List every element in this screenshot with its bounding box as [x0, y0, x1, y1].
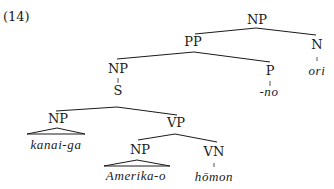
example-number: (14) — [3, 9, 30, 24]
leaf-amerika-o: Amerika-o — [105, 168, 166, 183]
node-np-subj: NP — [48, 111, 68, 126]
node-s: S — [114, 83, 123, 98]
leaf-ori: ori — [309, 63, 326, 78]
leaf-kanai-ga: kanai-ga — [30, 137, 81, 152]
node-pp: PP — [184, 34, 202, 49]
leaf-no: -no — [259, 84, 278, 99]
leaf-homon: hōmon — [195, 169, 233, 184]
triangle-np-obj — [104, 160, 170, 166]
node-np-root: NP — [247, 12, 267, 27]
node-np-mid: NP — [108, 61, 128, 76]
triangle-np-subj — [27, 128, 85, 134]
node-n: N — [311, 37, 322, 52]
edge-vp-np — [138, 134, 175, 140]
edge-np-n — [256, 28, 316, 35]
edge-pp-np — [117, 52, 194, 59]
node-np-obj: NP — [130, 142, 150, 157]
edge-pp-p — [194, 52, 270, 62]
edge-vp-vn — [175, 134, 217, 142]
syntax-tree-diagram: (14) NP PP N NP P S NP VP NP VN ori -no … — [0, 0, 334, 189]
node-vp: VP — [166, 115, 185, 130]
edge-s-vp — [117, 107, 177, 115]
node-p: P — [266, 63, 275, 78]
edge-np-pp — [195, 28, 256, 34]
node-vn: VN — [203, 144, 225, 159]
